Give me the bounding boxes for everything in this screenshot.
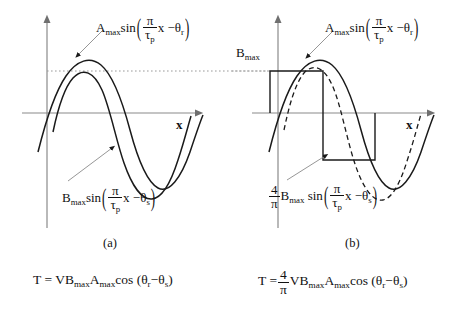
close-paren: ) bbox=[168, 272, 173, 287]
minus-sign: − bbox=[397, 20, 404, 35]
panel-b-curve-4pi-bmax-dashed bbox=[284, 68, 421, 201]
variable-x: x bbox=[387, 20, 394, 35]
panel-a-caption: (a) bbox=[103, 236, 117, 251]
fraction-denominator-taup: τp bbox=[143, 27, 157, 44]
theta-subscript: r bbox=[181, 27, 184, 37]
fraction-numerator-four: 4 bbox=[269, 183, 280, 196]
fraction-denominator-taup: τp bbox=[330, 195, 344, 212]
sin-text: sin bbox=[350, 20, 365, 35]
panel-b-x-axis-label: x bbox=[406, 118, 413, 131]
panel-b-label-bmax-level: Bmax bbox=[236, 46, 260, 61]
minus-sign: − bbox=[355, 188, 362, 203]
bmax-subscript: max bbox=[71, 197, 86, 207]
panel-a-x-axis-label: x bbox=[176, 118, 183, 131]
panel-b-caption: (b) bbox=[345, 236, 360, 251]
panel-a-leader-bmax bbox=[68, 148, 112, 181]
figure-root: Amaxsin(πτpx −θr) Bmaxsin(πτpx −θs) Bmax… bbox=[0, 0, 471, 315]
minus-sign: − bbox=[385, 273, 393, 288]
panel-b-label-4pi-bmax: 4πBmax sin(πτpx −θs) bbox=[268, 182, 378, 212]
fraction-numerator-pi: π bbox=[330, 182, 344, 195]
variable-x: x bbox=[123, 190, 130, 205]
tau-subscript: p bbox=[379, 34, 383, 44]
panel-b-square-wave bbox=[270, 71, 375, 160]
close-paren: ) bbox=[185, 15, 189, 40]
four-over-pi-fraction: 4π bbox=[278, 268, 289, 297]
fraction-denominator-taup: τp bbox=[372, 27, 386, 44]
pi-over-taup-fraction: πτp bbox=[108, 184, 122, 214]
sin-text: sin bbox=[86, 190, 101, 205]
bmax-symbol: B bbox=[236, 45, 245, 60]
panel-b-leader-4pi bbox=[287, 156, 325, 180]
cos-text: cos bbox=[115, 272, 133, 287]
open-paren: ( bbox=[102, 185, 106, 210]
fraction-numerator-pi: π bbox=[372, 14, 386, 27]
tau-subscript: p bbox=[150, 34, 154, 44]
equals-sign: = bbox=[269, 273, 277, 288]
bmax-symbol: B bbox=[62, 190, 71, 205]
a-symbol: A bbox=[324, 273, 334, 288]
close-paren: ) bbox=[414, 15, 418, 40]
pi-over-taup-fraction: πτp bbox=[372, 14, 386, 44]
torque-symbol: T bbox=[33, 272, 41, 287]
a-symbol: A bbox=[90, 272, 100, 287]
a-subscript: max bbox=[99, 279, 115, 289]
tau-subscript: p bbox=[116, 204, 120, 214]
a-subscript: max bbox=[334, 280, 350, 290]
bmax-subscript: max bbox=[245, 52, 260, 62]
four-over-pi-fraction: 4π bbox=[269, 183, 280, 211]
open-paren: ( bbox=[324, 183, 328, 208]
panel-a-equation: T = VBmaxAmaxcos (θr−θs) bbox=[33, 272, 173, 289]
vb-symbol: VB bbox=[290, 273, 309, 288]
sin-text: sin bbox=[308, 188, 323, 203]
amax-symbol: A bbox=[96, 20, 105, 35]
variable-x: x bbox=[345, 188, 352, 203]
fraction-numerator-four: 4 bbox=[278, 268, 289, 282]
open-paren: ( bbox=[366, 15, 370, 40]
amax-subscript: max bbox=[334, 27, 349, 37]
fraction-denominator-pi: π bbox=[278, 282, 289, 297]
panel-b-label-amax: Amaxsin(πτpx −θr) bbox=[325, 14, 419, 44]
torque-symbol: T bbox=[258, 273, 266, 288]
theta-subscript: s bbox=[368, 195, 371, 205]
tau-subscript: p bbox=[337, 202, 341, 212]
bmax-symbol: B bbox=[281, 188, 290, 203]
fraction-denominator-taup: τp bbox=[108, 197, 122, 214]
pi-over-taup-fraction: πτp bbox=[143, 14, 157, 44]
vb-subscript: max bbox=[309, 280, 325, 290]
theta-subscript: s bbox=[146, 197, 149, 207]
panel-a-label-bmax: Bmaxsin(πτpx −θs) bbox=[62, 184, 156, 214]
amax-subscript: max bbox=[105, 27, 120, 37]
vb-subscript: max bbox=[74, 279, 90, 289]
theta-subscript: r bbox=[410, 27, 413, 37]
bmax-subscript: max bbox=[289, 195, 304, 205]
fraction-denominator-pi: π bbox=[269, 196, 280, 210]
equals-sign: = bbox=[44, 272, 52, 287]
pi-over-taup-fraction: πτp bbox=[330, 182, 344, 212]
panel-a-curve-bmax bbox=[53, 72, 191, 199]
panel-b-equation: T =4πVBmaxAmaxcos (θr−θs) bbox=[258, 268, 408, 297]
close-paren: ) bbox=[151, 185, 155, 210]
fraction-numerator-pi: π bbox=[143, 14, 157, 27]
cos-text: cos bbox=[350, 273, 368, 288]
variable-x: x bbox=[158, 20, 165, 35]
fraction-numerator-pi: π bbox=[108, 184, 122, 197]
open-paren: ( bbox=[137, 15, 141, 40]
close-paren: ) bbox=[403, 273, 408, 288]
vb-symbol: VB bbox=[55, 272, 74, 287]
panel-a-label-amax: Amaxsin(πτpx −θr) bbox=[96, 14, 190, 44]
minus-sign: − bbox=[168, 20, 175, 35]
close-paren: ) bbox=[373, 183, 377, 208]
amax-symbol: A bbox=[325, 20, 334, 35]
sin-text: sin bbox=[121, 20, 136, 35]
